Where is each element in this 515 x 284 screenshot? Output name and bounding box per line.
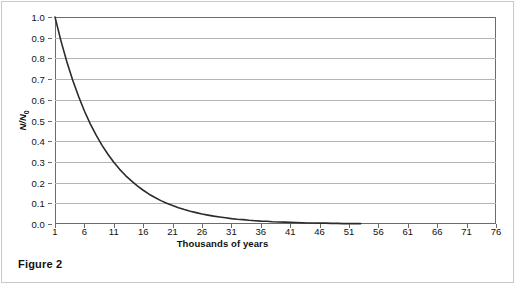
x-tick-label: 16 xyxy=(138,226,149,237)
y-tick-label: 0.6 xyxy=(31,94,45,105)
y-tick-label: 0.4 xyxy=(31,136,45,147)
y-tick-mark xyxy=(48,141,52,142)
x-tick-label: 61 xyxy=(403,226,414,237)
y-tick-mark xyxy=(48,224,52,225)
plot-area xyxy=(55,17,496,224)
y-tick-mark xyxy=(48,162,52,163)
x-tick-label: 36 xyxy=(256,226,267,237)
x-tick-label: 76 xyxy=(491,226,502,237)
y-tick-mark xyxy=(48,58,52,59)
figure-caption: Figure 2 xyxy=(18,258,62,270)
x-tick-label: 11 xyxy=(109,226,119,237)
x-tick-label: 41 xyxy=(285,226,296,237)
figure-page: N/N0 0.00.10.20.30.40.50.60.70.80.91.0 1… xyxy=(0,0,515,284)
y-tick-label: 0.8 xyxy=(31,53,45,64)
x-tick-label: 26 xyxy=(197,226,208,237)
y-tick-label: 0.5 xyxy=(31,115,45,126)
decay-curve xyxy=(55,17,496,224)
x-tick-label: 21 xyxy=(167,226,178,237)
y-tick-mark xyxy=(48,203,52,204)
x-tick-label: 31 xyxy=(226,226,237,237)
y-tick-label: 0.7 xyxy=(31,74,45,85)
y-tick-label: 1.0 xyxy=(31,12,45,23)
x-tick-label: 6 xyxy=(82,226,87,237)
y-tick-mark xyxy=(48,100,52,101)
y-tick-label: 0.0 xyxy=(31,219,45,230)
x-tick-label: 71 xyxy=(461,226,472,237)
x-tick-label: 51 xyxy=(344,226,355,237)
y-tick-label: 0.2 xyxy=(31,177,45,188)
y-tick-label: 0.1 xyxy=(31,198,45,209)
y-tick-label: 0.9 xyxy=(31,32,45,43)
y-tick-mark xyxy=(48,17,52,18)
x-axis-title: Thousands of years xyxy=(0,238,515,249)
x-tick-label: 1 xyxy=(52,226,57,237)
y-tick-mark xyxy=(48,38,52,39)
x-tick-label: 56 xyxy=(373,226,384,237)
y-tick-mark xyxy=(48,121,52,122)
x-tick-label: 46 xyxy=(314,226,325,237)
y-tick-mark xyxy=(48,183,52,184)
y-axis-tick-labels: 0.00.10.20.30.40.50.60.70.80.91.0 xyxy=(0,17,52,224)
x-tick-label: 66 xyxy=(432,226,443,237)
y-tick-label: 0.3 xyxy=(31,156,45,167)
y-tick-mark xyxy=(48,79,52,80)
